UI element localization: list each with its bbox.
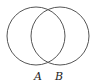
set-b-circle xyxy=(31,7,89,65)
set-b-label: B xyxy=(54,70,63,83)
venn-diagram: A B xyxy=(0,0,95,83)
set-a-circle xyxy=(7,7,65,65)
set-a-label: A xyxy=(33,70,42,83)
